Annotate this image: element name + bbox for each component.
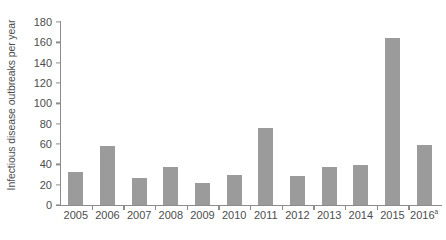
bar <box>385 38 400 205</box>
bar <box>195 183 210 205</box>
bar <box>163 167 178 205</box>
bar <box>132 178 147 205</box>
bar-chart-figure: Infectious disease outbreaks per year 18… <box>0 0 446 240</box>
bar <box>417 145 432 205</box>
bar <box>68 172 83 205</box>
bar <box>353 165 368 205</box>
x-tick-label-superscript: a <box>435 208 439 215</box>
plot-area: 180160140120100806040200 <box>60 22 440 205</box>
y-axis-title: Infectious disease outbreaks per year <box>2 2 20 208</box>
bars-layer <box>60 22 440 205</box>
bar <box>290 176 305 205</box>
bar <box>100 146 115 205</box>
bar <box>258 128 273 205</box>
bar <box>322 167 337 205</box>
bar <box>227 175 242 206</box>
x-tick-label: 2016a <box>403 210 445 221</box>
x-axis-line <box>56 205 442 206</box>
